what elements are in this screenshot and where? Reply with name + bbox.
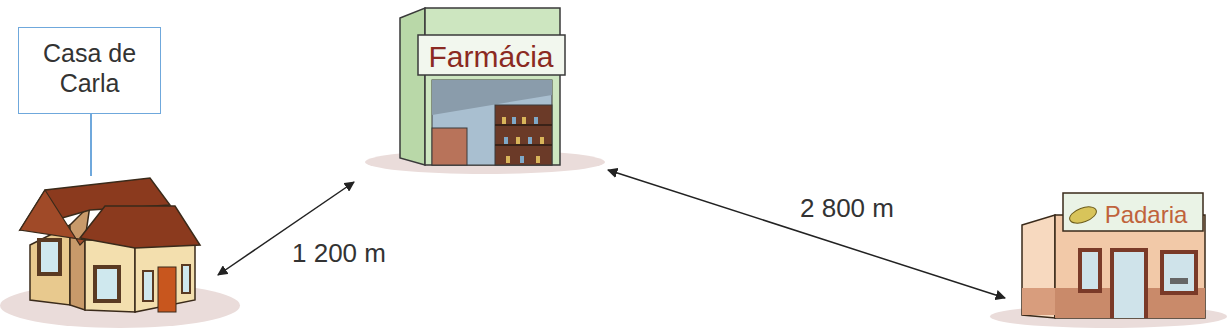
pharmacy-icon: Farmácia	[400, 8, 565, 165]
distance-label-pharmacy-bakery: 2 800 m	[800, 193, 894, 224]
house-icon	[20, 178, 200, 312]
pharmacy-sign: Farmácia	[428, 40, 553, 73]
bakery-icon: Padaria	[1022, 193, 1205, 318]
distance-arrow-pharmacy-bakery	[608, 170, 1005, 298]
distance-label-house-pharmacy: 1 200 m	[292, 238, 386, 269]
bakery-sign: Padaria	[1105, 201, 1188, 228]
diagram-graphics: Farmácia Padaria	[0, 0, 1227, 328]
